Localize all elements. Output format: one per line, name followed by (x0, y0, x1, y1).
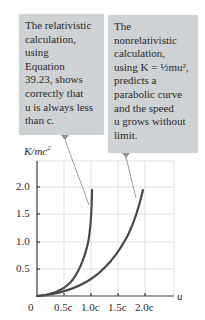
axes (37, 161, 175, 297)
x-tick-label: 1.0c (81, 301, 100, 313)
x-tick-label: 2.0c (135, 301, 154, 313)
origin-label: 0 (28, 301, 34, 313)
y-axis-label: K/mc2 (24, 145, 51, 157)
y-tick-label: 1.5 (16, 207, 30, 219)
kinetic-energy-chart (0, 0, 205, 320)
y-tick-label: 0.5 (16, 262, 30, 274)
x-axis-label: u (177, 290, 183, 302)
x-tick-label: 1.5c (108, 301, 127, 313)
y-tick-label: 2.0 (16, 180, 30, 192)
x-tick-label: 0.5c (54, 301, 73, 313)
y-tick-label: 1.0 (16, 235, 30, 247)
leader-lines (65, 140, 136, 205)
grid (37, 161, 174, 296)
relativistic-curve (37, 190, 92, 296)
nonrelativistic-curve (37, 190, 143, 296)
